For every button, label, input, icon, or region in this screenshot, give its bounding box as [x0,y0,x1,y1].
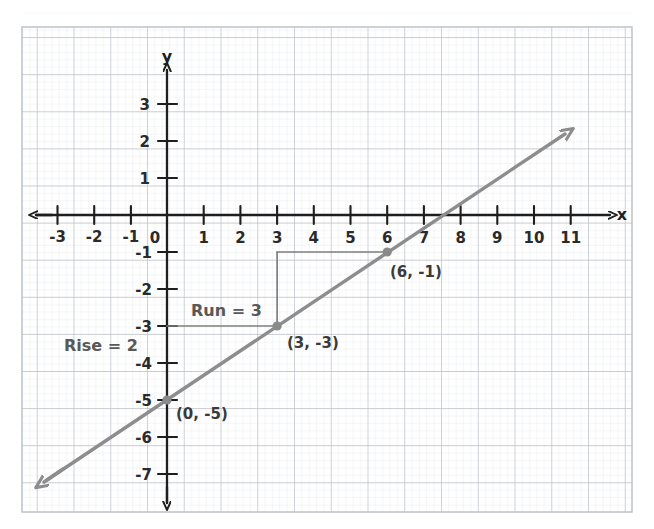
x-tick-label: 11 [560,229,581,247]
y-tick-label: -6 [135,429,152,447]
x-tick-label: -3 [49,228,66,246]
x-tick-label: 6 [382,229,392,247]
point-label-6-neg1: (6, -1) [390,263,442,281]
x-axis-label: x [617,205,628,224]
point-label-0-neg5: (0, -5) [176,405,228,423]
grid-paper [22,27,632,512]
y-tick-label: -4 [135,355,152,373]
x-tick-label: 2 [235,229,245,247]
x-tick-label: 9 [492,229,502,247]
y-axis-label: y [162,47,173,66]
y-tick-label: -2 [135,281,152,299]
point-label-3-neg3: (3, -3) [287,334,339,352]
y-tick-label: 3 [140,96,150,114]
x-tick-label: 10 [524,229,545,247]
y-tick-label: -3 [135,318,152,336]
x-tick-label: 1 [198,229,208,247]
point-marker [383,247,392,256]
y-tick-label: 2 [140,133,150,151]
x-tick-labels: -3 -2 -1 0 1 2 3 4 5 6 7 8 9 10 11 [49,228,581,247]
y-tick-label: -5 [135,392,152,410]
x-tick-label: 4 [309,229,319,247]
graph-page: -3 -2 -1 0 1 2 3 4 5 6 7 8 9 10 11 3 2 1… [0,0,654,529]
x-tick-label: -2 [86,228,103,246]
x-tick-label: 8 [455,229,465,247]
y-tick-label: -1 [135,244,152,262]
point-marker [273,321,282,330]
coordinate-graph: -3 -2 -1 0 1 2 3 4 5 6 7 8 9 10 11 3 2 1… [0,0,654,529]
run-annotation-label: Run = 3 [191,301,262,320]
point-marker [162,395,171,404]
x-tick-label: 3 [272,229,282,247]
x-tick-label: 5 [345,229,355,247]
rise-annotation-label: Rise = 2 [64,336,138,355]
y-tick-label: -7 [135,466,152,484]
y-tick-label: 1 [140,170,150,188]
